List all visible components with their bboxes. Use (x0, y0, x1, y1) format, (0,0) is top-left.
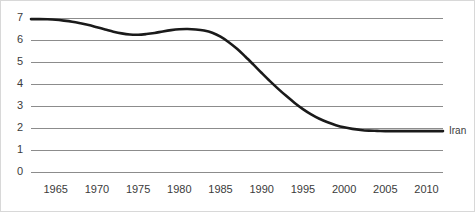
x-tick-label: 1970 (85, 183, 109, 195)
x-axis-tick-labels: 1965197019751980198519901995200020052010 (43, 183, 438, 195)
y-tick-label: 2 (17, 121, 23, 133)
x-tick-label: 1995 (291, 183, 315, 195)
series-line-iran (31, 19, 443, 131)
x-tick-label: 2000 (332, 183, 356, 195)
gridlines (31, 19, 443, 173)
y-tick-label: 4 (17, 77, 23, 89)
x-tick-label: 2010 (414, 183, 438, 195)
y-tick-label: 6 (17, 33, 23, 45)
line-chart-svg: 76543210 1965197019751980198519901995200… (1, 1, 475, 212)
data-series (31, 19, 443, 131)
x-tick-label: 1980 (167, 183, 191, 195)
x-tick-label: 1985 (208, 183, 232, 195)
x-tick-label: 2005 (373, 183, 397, 195)
x-tick-label: 1975 (126, 183, 150, 195)
x-tick-label: 1990 (249, 183, 273, 195)
y-tick-label: 0 (17, 165, 23, 177)
y-tick-label: 3 (17, 99, 23, 111)
y-tick-label: 1 (17, 143, 23, 155)
y-axis-tick-labels: 76543210 (17, 11, 23, 177)
x-tick-label: 1965 (43, 183, 67, 195)
y-tick-label: 7 (17, 11, 23, 23)
series-label-iran: Iran (449, 125, 466, 136)
inline-series-legend: Iran (449, 125, 466, 136)
chart-container: 76543210 1965197019751980198519901995200… (0, 0, 475, 212)
y-tick-label: 5 (17, 55, 23, 67)
